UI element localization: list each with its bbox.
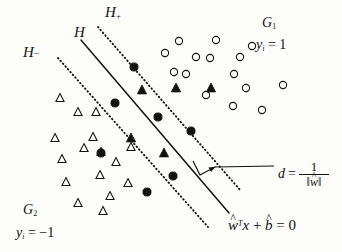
- marker-open-triangle: [62, 178, 70, 186]
- label-group-negative-letter: G: [23, 202, 33, 217]
- marker-open-circle: [230, 70, 237, 77]
- equation-plus: +: [253, 217, 261, 233]
- label-class-negative-subscript: i: [22, 232, 24, 241]
- hat-accent: ^: [266, 212, 272, 224]
- marker-filled-circle: [187, 127, 195, 135]
- equation-x: x: [242, 217, 249, 233]
- norm-close-bar: ‖: [318, 175, 321, 189]
- marker-filled-triangle: [126, 133, 135, 142]
- marker-open-triangle: [124, 179, 132, 187]
- marker-open-circle: [192, 53, 199, 60]
- label-class-positive-subscript: i: [262, 44, 264, 53]
- svm-margin-diagram: H H+ H− G1 yi = 1 G2 yi = −1 d = 1 ‖w^‖ …: [0, 0, 342, 252]
- marker-filled-circle: [169, 172, 177, 180]
- distance-leader-line: [215, 166, 274, 167]
- equation-rhs: = 0: [276, 217, 296, 233]
- marker-open-triangle: [96, 171, 104, 179]
- marker-open-triangle: [56, 94, 64, 102]
- marker-open-triangle: [106, 192, 114, 200]
- label-margin-distance-formula: d = 1 ‖w^‖: [278, 160, 329, 188]
- marker-open-triangle: [89, 133, 97, 141]
- label-group-positive-letter: G: [262, 15, 272, 30]
- margin-distance-indicator: [193, 161, 274, 175]
- marker-open-circle: [258, 106, 265, 113]
- marker-open-circle: [202, 91, 209, 98]
- marker-open-circle: [206, 54, 213, 61]
- margin-bracket: [193, 161, 215, 175]
- marker-open-triangle: [74, 108, 82, 116]
- marker-filled-triangle: [137, 85, 146, 94]
- label-class-negative: yi = −1: [16, 226, 54, 241]
- marker-open-circle: [229, 102, 236, 109]
- label-group-positive-subscript: 1: [272, 22, 276, 31]
- label-margin-lower-sign: −: [34, 48, 40, 59]
- norm-w-hat: w^: [310, 176, 318, 188]
- line-H: [81, 40, 229, 213]
- marker-open-triangle: [80, 144, 88, 152]
- label-group-positive: G1: [262, 16, 276, 31]
- label-hyperplane-H: H: [74, 25, 85, 40]
- label-group-negative-subscript: 2: [33, 209, 37, 218]
- marker-open-triangle: [51, 134, 59, 142]
- distance-denominator: ‖w^‖: [307, 175, 322, 188]
- marker-open-triangle: [92, 108, 100, 116]
- label-margin-upper-sign: +: [116, 12, 121, 21]
- label-margin-upper-letter: H: [105, 4, 116, 20]
- marker-open-circle: [182, 70, 189, 77]
- marker-open-circle: [248, 42, 255, 49]
- label-distance-symbol: d: [278, 167, 285, 181]
- label-group-negative: G2: [23, 203, 37, 218]
- marker-open-triangle: [99, 207, 107, 215]
- marker-open-circle: [170, 68, 177, 75]
- marker-open-circle: [212, 36, 219, 43]
- hat-accent: ^: [312, 171, 317, 181]
- label-distance-equals: =: [288, 167, 296, 181]
- marker-open-triangle: [58, 155, 66, 163]
- diagram-canvas: [0, 0, 342, 252]
- marker-filled-circle: [97, 149, 105, 157]
- marker-open-circle: [175, 37, 182, 44]
- label-hyperplane-equation: w^Tx + b^ = 0: [228, 218, 296, 233]
- marker-open-circle: [279, 81, 286, 88]
- equation-w-hat: w^: [228, 218, 238, 233]
- marker-filled-circle: [154, 113, 162, 121]
- marker-filled-triangle: [206, 83, 215, 92]
- marker-filled-triangle: [171, 83, 180, 92]
- label-class-negative-value: = −1: [28, 225, 54, 240]
- label-class-positive-value: = 1: [268, 37, 286, 52]
- label-margin-upper-Hplus: H+: [105, 5, 121, 21]
- marker-filled-circle: [130, 63, 138, 71]
- marker-open-circle: [242, 84, 249, 91]
- label-margin-lower-letter: H: [23, 44, 34, 60]
- marker-filled-circle: [143, 188, 151, 196]
- distance-fraction: 1 ‖w^‖: [299, 160, 329, 188]
- marker-open-circle: [161, 49, 168, 56]
- data-point-markers: [51, 36, 287, 214]
- marker-filled-circle: [111, 99, 119, 107]
- line-H-: [58, 58, 208, 227]
- marker-open-triangle: [112, 158, 120, 166]
- equation-b-hat: b^: [265, 218, 273, 233]
- marker-open-triangle: [74, 199, 82, 207]
- hat-accent: ^: [230, 212, 236, 224]
- label-margin-lower-Hminus: H−: [23, 45, 39, 60]
- marker-filled-triangle: [159, 148, 168, 157]
- marker-open-circle: [236, 53, 243, 60]
- label-class-positive: yi = 1: [256, 38, 286, 53]
